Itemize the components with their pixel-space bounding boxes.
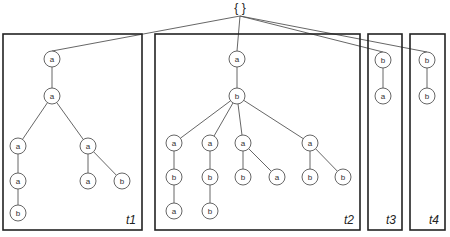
node-label: b (120, 177, 125, 186)
tree-edge (94, 152, 117, 176)
tree-label-t3: t3 (386, 213, 396, 227)
tree-node: b (302, 169, 318, 185)
node-label: a (172, 139, 177, 148)
node-label: b (425, 92, 430, 101)
node-label: b (235, 92, 240, 101)
node-label: a (235, 55, 240, 64)
tree-edge (244, 100, 304, 138)
node-label: a (86, 177, 91, 186)
node-label: a (381, 92, 386, 101)
tree-node: a (235, 135, 251, 151)
tree-node: b (375, 52, 391, 68)
tree-node: a (166, 135, 182, 151)
tree-node: a (375, 88, 391, 104)
tree-node: a (269, 169, 285, 185)
node-label: b (381, 56, 386, 65)
tree-node: a (80, 173, 96, 189)
node-label: a (172, 207, 177, 216)
tree-forest-diagram: t1t2t3t4 aaaaaabbabaaaabbbabbabbabb { } (0, 0, 450, 237)
tree-edges (18, 67, 427, 205)
node-label: a (208, 139, 213, 148)
tree-node: b (202, 203, 218, 219)
node-label: a (308, 139, 313, 148)
node-label: b (341, 173, 346, 182)
tree-edge (316, 149, 338, 172)
tree-node: b (166, 169, 182, 185)
tree-node: a (80, 138, 96, 154)
tree-edge (214, 103, 233, 136)
tree-edge (22, 103, 47, 140)
tree-node: b (335, 169, 351, 185)
node-label: b (172, 173, 177, 182)
tree-node: b (229, 88, 245, 104)
node-label: a (275, 173, 280, 182)
node-label: b (16, 209, 21, 218)
node-label: b (241, 173, 246, 182)
tree-node: b (10, 205, 26, 221)
tree-box-t2 (155, 34, 360, 230)
tree-box-t1 (3, 34, 142, 230)
tree-node: b (202, 169, 218, 185)
tree-node: a (202, 135, 218, 151)
tree-node: a (44, 88, 60, 104)
node-label: a (50, 92, 55, 101)
tree-edge (238, 104, 242, 135)
tree-edge (57, 102, 84, 139)
tree-label-t4: t4 (429, 213, 439, 227)
node-label: b (208, 207, 213, 216)
tree-node: b (419, 88, 435, 104)
tree-node: a (10, 173, 26, 189)
tree-node: b (419, 52, 435, 68)
node-label: a (86, 142, 91, 151)
node-label: a (50, 55, 55, 64)
tree-node: b (235, 169, 251, 185)
node-label: a (16, 142, 21, 151)
tree-node: a (166, 203, 182, 219)
tree-node: b (114, 173, 130, 189)
node-label: b (308, 173, 313, 182)
tree-edge (249, 149, 272, 172)
node-label: b (208, 173, 213, 182)
tree-label-t1: t1 (126, 213, 136, 227)
tree-node: a (44, 51, 60, 67)
tree-nodes: aaaaaabbabaaaabbbabbabbabb (10, 51, 435, 221)
node-label: a (241, 139, 246, 148)
node-label: b (425, 56, 430, 65)
tree-label-t2: t2 (344, 213, 354, 227)
root-node-label: { } (234, 1, 245, 15)
tree-node: a (302, 135, 318, 151)
tree-node: a (10, 138, 26, 154)
tree-node: a (229, 51, 245, 67)
node-label: a (16, 177, 21, 186)
